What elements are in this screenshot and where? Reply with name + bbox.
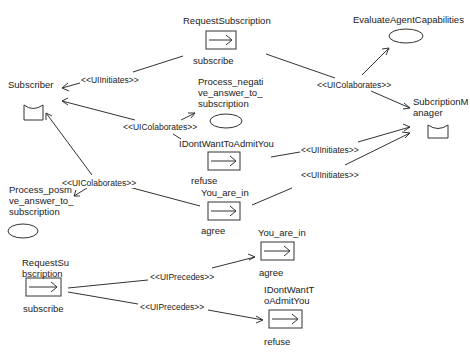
you-are-in-bottom-label[interactable]: You_are_in	[258, 227, 306, 238]
task-ellipse-icon	[389, 29, 423, 43]
interaction-icon	[206, 31, 236, 49]
agree-caption: agree	[201, 225, 225, 236]
edge-label-uicolaborates: <<UIColaborates>>	[123, 122, 197, 132]
role-icon	[24, 105, 43, 120]
subscription-manager-label[interactable]: SubcriptionM anager	[413, 96, 468, 118]
role-icon	[428, 125, 448, 138]
refuse-caption: refuse	[191, 175, 217, 186]
idontwant-bottom-label[interactable]: IDontWantT oAdmitYou	[264, 284, 314, 306]
diagram-canvas: RequestSubscription subscribe EvaluateAg…	[0, 0, 470, 355]
task-ellipse-icon	[8, 224, 38, 238]
request-subscription-bottom-label[interactable]: RequestSu bscription	[22, 257, 69, 279]
you-are-in-mid-label[interactable]: You_are_in	[201, 187, 249, 198]
interaction-icon	[26, 278, 61, 296]
edge-label-uiinitiates: <<UIInitiates>>	[301, 145, 359, 155]
interaction-icon	[208, 152, 240, 170]
idontwant-mid-label[interactable]: IDontWantToAdmitYou	[179, 138, 274, 149]
subscribe-bottom-caption: subscribe	[23, 303, 64, 314]
interaction-icon	[269, 310, 302, 328]
process-negative-label[interactable]: Process_negati ve_answer_to_ subscriptio…	[198, 76, 263, 109]
subscribe-caption: subscribe	[193, 55, 234, 66]
request-subscription-label[interactable]: RequestSubscription	[183, 15, 271, 26]
edge-label-uicolaborates: <<UIColaborates>>	[62, 178, 136, 188]
edge-label-uiinitiates: <<UIInitiates>>	[301, 170, 359, 180]
interaction-icon	[261, 242, 294, 260]
evaluate-agent-capabilities-label[interactable]: EvaluateAgentCapabilities	[353, 14, 464, 25]
edge-label-uiprecedes: <<UIPrecedes>>	[150, 272, 214, 282]
refuse-bottom-caption: refuse	[264, 336, 290, 347]
agree-bottom-caption: agree	[259, 267, 283, 278]
process-positive-label[interactable]: Process_posm ve_answer_to_ subscription	[9, 184, 73, 217]
edge-label-uiprecedes: <<UIPrecedes>>	[140, 302, 204, 312]
subscriber-label[interactable]: Subscriber	[8, 79, 53, 90]
edge-label-uiinitiates: <<UIInitiates>>	[81, 75, 139, 85]
interaction-icon	[208, 202, 240, 220]
task-ellipse-icon	[210, 114, 242, 128]
edge-label-uicolaborates: <<UIColaborates>>	[317, 80, 391, 90]
